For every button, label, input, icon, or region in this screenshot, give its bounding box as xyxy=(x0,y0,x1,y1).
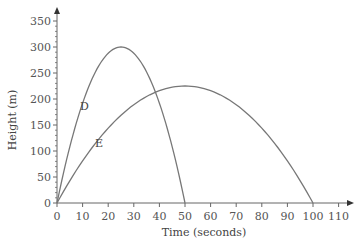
x-tick-label: 40 xyxy=(152,210,166,223)
y-tick-label: 250 xyxy=(30,67,51,80)
y-tick-label: 300 xyxy=(30,41,51,54)
y-axis-arrow-icon xyxy=(54,7,60,14)
series-d-label: D xyxy=(80,100,89,113)
x-tick-label: 0 xyxy=(54,210,61,223)
x-axis-arrow-icon xyxy=(347,200,354,206)
x-tick-label: 10 xyxy=(76,210,90,223)
y-tick-label: 100 xyxy=(30,145,51,158)
series-d-curve xyxy=(57,47,185,203)
y-tick-label: 50 xyxy=(37,171,51,184)
y-axis-ticks: 050100150200250300350 xyxy=(30,15,57,210)
x-axis-title: Time (seconds) xyxy=(162,226,247,239)
series-e-label: E xyxy=(95,137,103,150)
x-tick-label: 110 xyxy=(328,210,349,223)
x-tick-label: 60 xyxy=(204,210,218,223)
x-tick-label: 20 xyxy=(101,210,115,223)
y-tick-label: 200 xyxy=(30,93,51,106)
x-tick-label: 100 xyxy=(303,210,324,223)
y-axis-title: Height (m) xyxy=(6,90,19,151)
x-tick-label: 80 xyxy=(255,210,269,223)
x-tick-label: 90 xyxy=(280,210,294,223)
y-tick-label: 0 xyxy=(44,197,51,210)
y-tick-label: 150 xyxy=(30,119,51,132)
x-tick-label: 70 xyxy=(229,210,243,223)
x-axis-ticks: 0102030405060708090100110 xyxy=(54,203,350,223)
chart-canvas: 050100150200250300350 010203040506070809… xyxy=(0,0,362,246)
x-tick-label: 50 xyxy=(178,210,192,223)
y-tick-label: 350 xyxy=(30,15,51,28)
x-tick-label: 30 xyxy=(127,210,141,223)
